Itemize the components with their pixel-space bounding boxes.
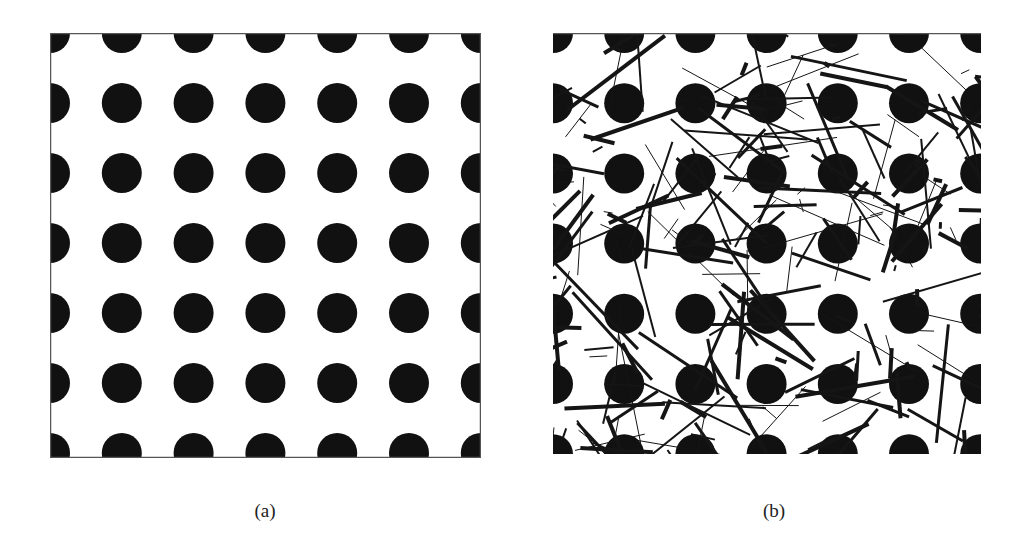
- grid-dot: [604, 294, 644, 334]
- grid-dot: [245, 363, 285, 403]
- occluding-line: [917, 331, 934, 332]
- grid-dot: [818, 294, 858, 334]
- grid-dot: [389, 153, 429, 193]
- grid-dot: [317, 293, 357, 333]
- grid-dot: [102, 223, 142, 263]
- grid-dot: [889, 364, 929, 404]
- grid-dot: [747, 364, 787, 404]
- grid-dot: [389, 363, 429, 403]
- grid-dot: [317, 363, 357, 403]
- caption-a: (a): [254, 500, 275, 522]
- occluding-line: [754, 205, 817, 207]
- occluding-line: [553, 327, 581, 328]
- grid-dot: [174, 223, 214, 263]
- occluding-line: [857, 351, 859, 381]
- grid-dot: [245, 153, 285, 193]
- panel-b-occluded-dot-grid: [553, 33, 981, 454]
- grid-dot: [389, 83, 429, 123]
- panel-a-dot-grid: [50, 33, 481, 458]
- grid-dot: [174, 363, 214, 403]
- grid-dot: [317, 83, 357, 123]
- occluded-dot-grid-figure-b: [553, 33, 981, 454]
- grid-dot: [604, 153, 644, 193]
- grid-dot: [389, 223, 429, 263]
- dot-grid-figure-a: [50, 33, 481, 458]
- grid-dot: [245, 83, 285, 123]
- grid-dot: [675, 294, 715, 334]
- grid-dot: [245, 293, 285, 333]
- occluding-line: [710, 452, 711, 454]
- grid-dot: [102, 293, 142, 333]
- grid-dot: [102, 153, 142, 193]
- grid-dot: [174, 153, 214, 193]
- occluding-line: [890, 348, 892, 378]
- grid-dot: [174, 83, 214, 123]
- grid-dot: [317, 153, 357, 193]
- grid-dot: [102, 83, 142, 123]
- grid-dot: [389, 293, 429, 333]
- grid-dot: [245, 223, 285, 263]
- occluding-line: [934, 179, 943, 181]
- grid-dot: [102, 363, 142, 403]
- caption-b: (b): [763, 500, 785, 522]
- grid-dot: [174, 293, 214, 333]
- grid-dot: [317, 223, 357, 263]
